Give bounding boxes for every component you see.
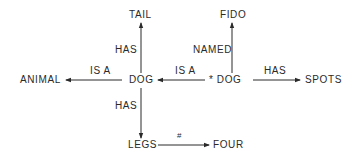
node-fido: FIDO — [220, 9, 246, 21]
node-tail: TAIL — [129, 9, 152, 21]
label-instance-spots: HAS — [264, 65, 286, 77]
label-dog-animal: IS A — [90, 65, 111, 77]
node-legs: LEGS — [128, 139, 157, 151]
node-four: FOUR — [213, 139, 244, 151]
label-legs-four: # — [177, 130, 182, 142]
node-dog-instance: * DOG — [209, 74, 241, 86]
node-dog: DOG — [129, 74, 154, 86]
label-dog-legs: HAS — [115, 100, 137, 112]
label-instance-dog: IS A — [175, 65, 196, 77]
node-animal: ANIMAL — [20, 74, 61, 86]
label-dog-tail: HAS — [115, 44, 137, 56]
label-instance-fido: NAMED — [193, 44, 232, 56]
node-spots: SPOTS — [305, 74, 342, 86]
